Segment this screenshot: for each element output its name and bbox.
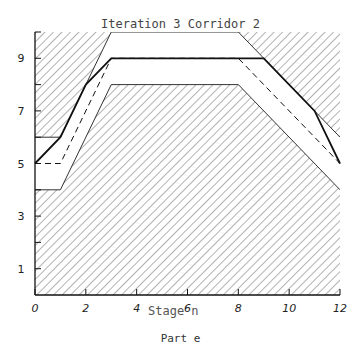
x-tick-label: 12: [333, 302, 347, 315]
corridor-chart: 02468101213579: [0, 0, 361, 354]
x-axis-label: Stage n: [148, 304, 199, 318]
y-tick-label: 1: [18, 263, 25, 276]
figure-caption: Part e: [0, 332, 361, 345]
y-tick-label: 9: [18, 52, 25, 65]
y-tick-label: 7: [18, 105, 25, 118]
x-tick-label: 10: [282, 302, 296, 315]
y-tick-label: 3: [18, 210, 25, 223]
x-tick-label: 8: [235, 302, 242, 315]
x-tick-label: 0: [32, 302, 39, 315]
x-tick-label: 2: [82, 302, 89, 315]
y-tick-label: 5: [18, 158, 25, 171]
x-tick-label: 4: [133, 302, 140, 315]
plot-area: 02468101213579: [18, 32, 348, 315]
